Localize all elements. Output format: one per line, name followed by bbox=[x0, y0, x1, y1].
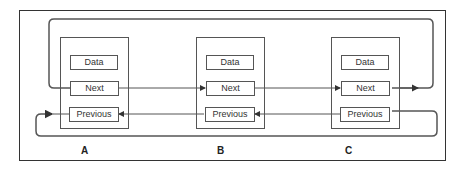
linked-list-diagram: Data Next Previous Data Next Previous Da… bbox=[0, 0, 466, 171]
node-a-data-field: Data bbox=[70, 55, 118, 70]
node-c-next-field: Next bbox=[341, 81, 390, 96]
node-b: Data Next Previous bbox=[196, 37, 265, 129]
node-c-previous-field: Previous bbox=[340, 107, 390, 122]
node-c-data-field: Data bbox=[341, 55, 389, 70]
node-a-previous-field: Previous bbox=[69, 107, 119, 122]
node-c: Data Next Previous bbox=[331, 37, 400, 129]
node-a-next-field: Next bbox=[70, 81, 119, 96]
node-a-label: A bbox=[81, 145, 88, 156]
node-a: Data Next Previous bbox=[60, 37, 129, 129]
node-b-next-field: Next bbox=[206, 81, 255, 96]
node-b-data-field: Data bbox=[206, 55, 254, 70]
node-c-label: C bbox=[345, 145, 352, 156]
node-b-label: B bbox=[217, 145, 224, 156]
node-b-previous-field: Previous bbox=[205, 107, 255, 122]
